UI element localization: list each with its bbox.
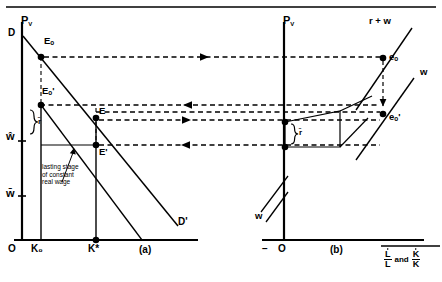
label-origin-b: O	[278, 244, 286, 254]
flow-arrow-mid-left-head	[183, 101, 192, 109]
label-D: D	[8, 28, 15, 38]
frac1-denominator: L	[384, 260, 392, 269]
annotation-lasting-stage: lasting stage of constant real wage	[42, 163, 79, 186]
curve-D-Dprime	[23, 36, 178, 226]
label-origin-prefix-b: −	[262, 244, 268, 254]
label-point-e0-prime: eₒ'	[389, 112, 400, 122]
label-point-E: E	[99, 106, 105, 116]
frac2-denominator: K	[412, 260, 421, 269]
label-point-e0: eₒ	[389, 52, 398, 62]
point-e0-prime	[380, 111, 387, 118]
label-r-bar-panel-a: r̄	[38, 118, 41, 126]
label-w-bar: w̄	[6, 188, 15, 199]
wedge-polygon	[285, 111, 340, 147]
panel-a	[14, 22, 198, 243]
label-w-upper: w	[420, 67, 427, 77]
wedge-upper-edge	[340, 96, 372, 111]
panel-b-y-axis-label: PV	[283, 15, 294, 27]
frac2-numerator: K	[412, 250, 421, 260]
point-e0	[380, 55, 387, 62]
line-r-plus-w	[356, 28, 412, 110]
panel-b-x-axis-label: L L and K K	[384, 250, 420, 269]
caption-panel-a: (a)	[139, 245, 151, 255]
label-r-bar-panel-b: r̄	[299, 129, 302, 137]
frac-Kdot-over-K: K K	[412, 250, 421, 269]
label-w-hat: ŵ	[6, 131, 15, 142]
brace-r-bar-panel-a	[30, 110, 38, 134]
frac-Ldot-over-L: L L	[384, 250, 392, 269]
figure-canvas: PV D D' Eₒ Eₒ' E E' r̄ ŵ w̄ lasting sta…	[0, 0, 442, 282]
label-and: and	[395, 255, 409, 264]
brace-r-bar-panel-b	[291, 124, 298, 144]
economics-diagram-svg	[0, 0, 442, 282]
label-w-lower: w	[255, 211, 262, 221]
panel-b	[261, 22, 424, 240]
flow-arrow-bottom-left-head	[181, 141, 190, 149]
label-origin-a: O	[8, 244, 16, 254]
label-point-E-prime: E'	[99, 147, 108, 157]
label-point-E0-prime: Eₒ'	[42, 86, 55, 96]
flow-arrow-mid-right-head	[182, 116, 191, 124]
label-r-plus-w: r + w	[369, 16, 391, 26]
point-E0	[38, 54, 45, 61]
label-D-prime: D'	[178, 217, 188, 227]
label-K0: K₀	[31, 244, 43, 254]
label-K-star: K*	[88, 244, 99, 254]
label-point-E0: Eₒ	[44, 36, 54, 46]
wedge-diagonal	[340, 118, 368, 147]
caption-panel-b: (b)	[330, 245, 343, 255]
frac1-numerator: L	[384, 250, 392, 260]
line-w-upper	[356, 78, 414, 160]
panel-a-y-axis-label: PV	[21, 15, 32, 27]
flow-arrows	[40, 53, 380, 149]
flow-arrow-top-head	[200, 53, 209, 61]
